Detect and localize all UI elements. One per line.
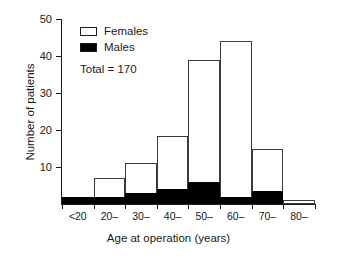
x-tick-60 — [220, 205, 221, 209]
bar-group-50 — [188, 60, 220, 204]
bar-group-40 — [157, 136, 189, 205]
legend-label-males: Males — [104, 41, 135, 54]
legend-swatch-females-icon — [80, 27, 97, 36]
y-tick-10 — [56, 167, 61, 168]
histogram-figure: 50 40 30 20 10 — [0, 0, 337, 260]
bar-males-lt20 — [62, 197, 94, 204]
x-tick-30 — [125, 205, 126, 209]
x-tick-label-80: 80– — [279, 210, 319, 222]
chart-legend: Females Males Total = 170 — [80, 24, 148, 76]
x-tick-lt20 — [62, 205, 63, 209]
bar-females-60 — [220, 41, 252, 204]
x-tick-20 — [94, 205, 95, 209]
legend-label-females: Females — [104, 25, 148, 38]
bar-males-70 — [252, 191, 284, 204]
bar-males-30 — [125, 193, 157, 204]
bar-group-70 — [252, 149, 284, 205]
y-tick-20 — [56, 130, 61, 131]
bar-males-60 — [220, 197, 252, 204]
bar-males-40 — [157, 189, 189, 204]
x-tick-40 — [157, 205, 158, 209]
bar-group-lt20 — [62, 197, 94, 204]
x-axis-title: Age at operation (years) — [0, 231, 337, 245]
y-tick-label-50: 50 — [12, 14, 52, 25]
legend-item-females: Females — [80, 24, 148, 39]
bar-males-20 — [94, 197, 126, 204]
x-tick-50 — [188, 205, 189, 209]
x-tick-80 — [283, 205, 284, 209]
y-tick-40 — [56, 56, 61, 57]
x-tick-70 — [252, 205, 253, 209]
x-tick-end — [315, 205, 316, 209]
bar-group-30 — [125, 163, 157, 204]
bar-males-50 — [188, 182, 220, 204]
y-axis-title: Number of patients — [23, 32, 37, 192]
bar-group-60 — [220, 41, 252, 204]
legend-total-annotation: Total = 170 — [80, 63, 148, 76]
y-tick-30 — [56, 93, 61, 94]
legend-item-males: Males — [80, 40, 148, 55]
bar-group-20 — [94, 178, 126, 204]
legend-swatch-males-icon — [80, 43, 97, 52]
y-tick-50 — [56, 19, 61, 20]
